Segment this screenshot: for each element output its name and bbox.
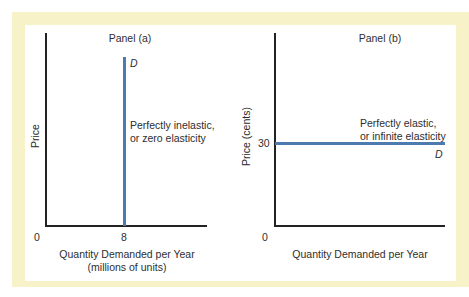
panel-b-x-axis — [274, 225, 445, 227]
panel-b-y-axis — [274, 33, 276, 227]
panel-a-y-label: Price — [29, 124, 41, 148]
panel-a-annotation-line2: or zero elasticity — [130, 132, 206, 144]
panel-a-x-label-line1: Quantity Demanded per Year — [48, 248, 206, 260]
panel-a-x-axis — [45, 225, 207, 227]
panel-a-x-tick-8: 8 — [121, 231, 127, 243]
panel-b-curve-label: D — [435, 148, 443, 160]
panel-a-demand-curve — [123, 57, 126, 226]
panel-b-y-label: Price (cents) — [240, 107, 252, 166]
panel-b-x-label: Quantity Demanded per Year — [280, 248, 440, 260]
panel-a-x-label-line2: (millions of units) — [48, 261, 206, 273]
panel-a-annotation-line1: Perfectly inelastic, — [130, 119, 215, 131]
panel-b-demand-curve — [275, 142, 445, 145]
panel-b-annotation-line1: Perfectly elastic, — [360, 117, 436, 129]
panel-a-curve-label: D — [130, 57, 138, 69]
panel-b-annotation-line2: or infinite elasticity — [360, 130, 446, 142]
panel-b-title: Panel (b) — [340, 32, 420, 44]
panel-a-origin-label: 0 — [34, 231, 40, 243]
panel-b-y-tick-30: 30 — [258, 137, 270, 149]
panel-a-title: Panel (a) — [90, 32, 170, 44]
panel-a-y-axis — [45, 33, 47, 227]
panel-b-origin-label: 0 — [262, 231, 268, 243]
